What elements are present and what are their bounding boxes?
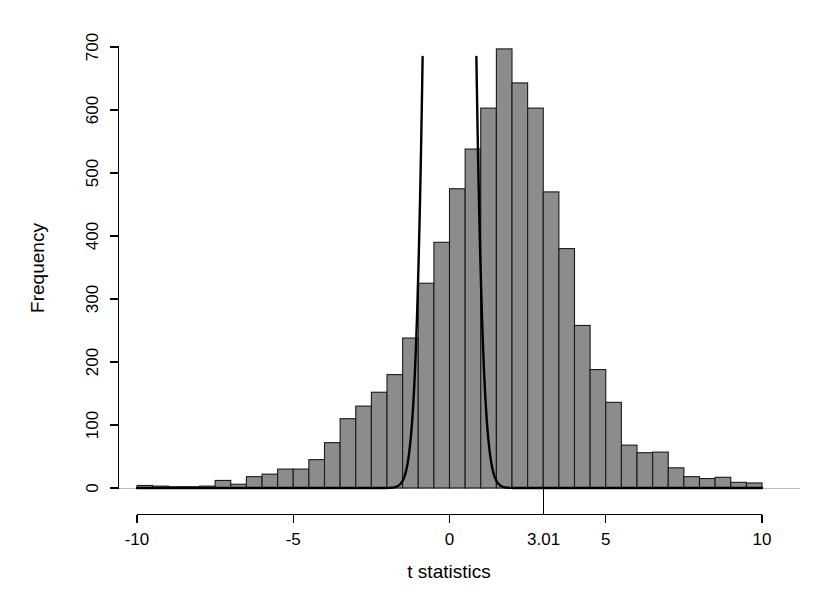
histogram-bar <box>684 477 700 488</box>
histogram-bar <box>653 452 669 488</box>
histogram-bar <box>309 460 325 488</box>
histogram-bar <box>715 477 731 488</box>
x-axis-tick-label: -5 <box>286 530 301 549</box>
histogram-bar <box>293 469 309 488</box>
critical-value-label: 3.01 <box>527 530 560 549</box>
y-axis-tick-label: 300 <box>83 285 102 313</box>
histogram-bar <box>668 468 684 488</box>
histogram-bar <box>278 469 294 488</box>
histogram-bar <box>637 453 653 488</box>
plot-background <box>0 0 822 615</box>
histogram-bar <box>590 370 606 488</box>
x-axis-tick-label: 0 <box>445 530 454 549</box>
histogram-bar <box>262 474 278 488</box>
x-axis-title: t statistics <box>407 561 490 582</box>
histogram-bar <box>700 479 716 488</box>
y-axis-tick-label: 0 <box>83 483 102 492</box>
histogram-bar <box>387 375 403 488</box>
y-axis-title: Frequency <box>27 223 48 313</box>
histogram-bar <box>356 406 372 488</box>
histogram-bar <box>559 249 575 488</box>
y-axis-tick-label: 500 <box>83 159 102 187</box>
histogram-bar <box>543 192 559 488</box>
histogram-bar <box>418 283 434 488</box>
histogram-bar <box>621 445 637 488</box>
histogram-bar <box>512 83 528 488</box>
histogram-bar <box>340 419 356 488</box>
histogram-bar <box>528 108 544 488</box>
y-axis-tick-label: 100 <box>83 411 102 439</box>
x-axis-tick-label: 5 <box>601 530 610 549</box>
x-axis-tick-label: -10 <box>125 530 150 549</box>
histogram-bar <box>450 189 466 488</box>
y-axis-tick-label: 200 <box>83 348 102 376</box>
histogram-bar <box>606 402 622 488</box>
histogram-bar <box>496 49 512 488</box>
histogram-bar <box>246 477 262 488</box>
histogram-plot: 0100200300400500600700 -10-50510 3.01 t … <box>0 0 822 615</box>
x-axis-tick-label: 10 <box>753 530 772 549</box>
y-axis-tick-label: 400 <box>83 222 102 250</box>
histogram-bar <box>575 325 591 488</box>
y-axis-tick-label: 700 <box>83 33 102 61</box>
histogram-bar <box>434 242 450 488</box>
histogram-bar <box>325 443 341 488</box>
y-axis-tick-label: 600 <box>83 96 102 124</box>
histogram-bar <box>371 392 387 488</box>
chart-figure: 0100200300400500600700 -10-50510 3.01 t … <box>0 0 822 615</box>
